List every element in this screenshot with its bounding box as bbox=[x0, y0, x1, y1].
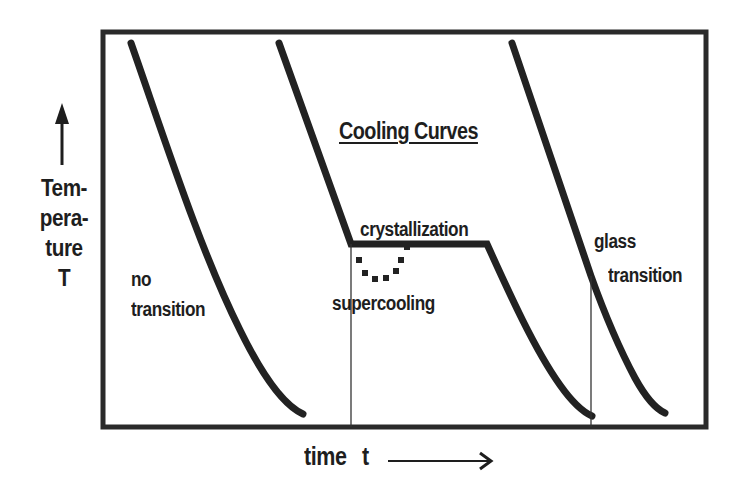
curve-glass-transition bbox=[512, 43, 665, 413]
y-axis-label: Tem- pera- ture T bbox=[28, 173, 100, 293]
up-arrow-icon bbox=[55, 103, 69, 165]
glass-transition-label-line1: glass bbox=[594, 230, 636, 253]
y-axis-label-line: T bbox=[32, 263, 97, 293]
glass-transition-label-line2: transition bbox=[608, 264, 682, 287]
x-axis-label: timet bbox=[304, 442, 369, 471]
supercooling-dots bbox=[356, 245, 410, 282]
curve-no-transition bbox=[131, 43, 303, 414]
y-axis-label-line: pera- bbox=[32, 203, 97, 233]
no-transition-label-line1: no bbox=[131, 268, 151, 291]
diagram-title: Cooling Curves bbox=[339, 118, 478, 145]
right-arrow-icon bbox=[388, 453, 491, 469]
crystallization-label: crystallization bbox=[360, 218, 468, 241]
y-axis-label-line: ture bbox=[32, 233, 97, 263]
no-transition-label-line2: transition bbox=[131, 298, 205, 321]
y-axis-label-line: Tem- bbox=[32, 173, 97, 203]
supercooling-label: supercooling bbox=[332, 292, 435, 315]
x-axis-label-word: time bbox=[304, 442, 346, 470]
x-axis-label-symbol: t bbox=[362, 442, 369, 470]
